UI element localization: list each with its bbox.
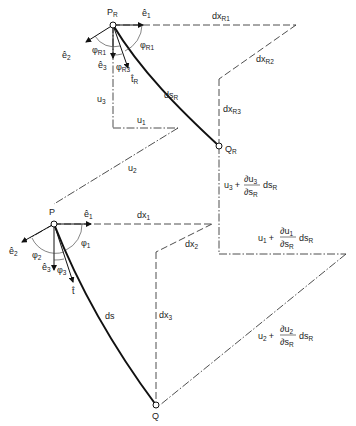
label-p: P <box>49 207 55 217</box>
label-qr: QR <box>225 144 237 155</box>
formula-u1-plus: u1+ ∂u1 ∂sR dsR <box>258 226 314 250</box>
u2-line <box>54 128 178 204</box>
label-e2-upper: ê2 <box>62 50 71 61</box>
dx-r2-line <box>219 25 296 79</box>
label-ds-r: dsR <box>164 90 179 101</box>
deformed-configuration: P ê1 ê2 ê3 t̂ φ1 φ2 φ3 ds dx1 dx2 dx3 Q <box>9 207 212 421</box>
svg-text:dsR: dsR <box>263 180 278 191</box>
formula-u3-plus: u3+ ∂u3 ∂sR dsR <box>224 174 278 198</box>
label-u1: u1 <box>137 115 146 126</box>
label-u3: u3 <box>97 94 106 105</box>
label-t-lower: t̂ <box>71 286 75 296</box>
svg-text:dsR: dsR <box>299 331 314 342</box>
svg-text:dsR: dsR <box>299 233 314 244</box>
label-dx-r1: dxR1 <box>212 11 230 22</box>
label-phi3: φ3 <box>57 265 67 276</box>
svg-text:u1+: u1+ <box>258 233 274 244</box>
label-e3-lower: ê3 <box>42 262 51 273</box>
svg-text:∂sR: ∂sR <box>280 337 294 348</box>
phi3-arc <box>54 259 64 260</box>
dx2-line <box>156 224 212 252</box>
reference-configuration: PR ê1 ê2 ê3 t̂R φR1 φR1 φR3 dsR dxR1 dxR… <box>54 7 346 405</box>
label-ds: ds <box>105 311 115 321</box>
u2-plus-line <box>160 254 346 405</box>
label-dx3: dx3 <box>159 310 173 321</box>
svg-text:∂u2: ∂u2 <box>280 324 293 335</box>
deformation-diagram: PR ê1 ê2 ê3 t̂R φR1 φR1 φR3 dsR dxR1 dxR… <box>0 0 356 426</box>
label-e1-upper: ê1 <box>142 8 151 19</box>
phi-r2-arc <box>95 36 120 47</box>
label-dx2: dx2 <box>185 239 199 250</box>
phi-r3-arc <box>113 54 122 55</box>
e2-arrow-lower <box>22 224 54 242</box>
label-e2-lower: ê2 <box>9 246 18 257</box>
label-dx-r2: dxR2 <box>256 54 274 65</box>
svg-text:∂sR: ∂sR <box>244 187 258 198</box>
label-phi-r1-left: φR1 <box>92 45 107 56</box>
point-q <box>153 402 159 408</box>
label-e1-lower: ê1 <box>84 209 93 220</box>
label-q: Q <box>152 411 159 421</box>
label-dx1: dx1 <box>137 210 151 221</box>
label-e3-upper: ê3 <box>98 60 107 71</box>
label-phi-r1-right: φR1 <box>140 40 155 51</box>
label-pr: PR <box>107 7 118 18</box>
svg-text:u3+: u3+ <box>224 180 240 191</box>
e2-arrow-upper <box>86 25 113 42</box>
point-qr <box>216 143 222 149</box>
svg-text:∂sR: ∂sR <box>280 239 294 250</box>
label-u2: u2 <box>128 163 137 174</box>
svg-text:u2+: u2+ <box>258 331 274 342</box>
label-phi1: φ1 <box>81 238 91 249</box>
label-phi2: φ2 <box>32 250 42 261</box>
label-t-upper: t̂R <box>130 74 138 85</box>
svg-text:∂u3: ∂u3 <box>244 174 257 185</box>
point-pr <box>110 22 116 28</box>
point-p <box>51 221 57 227</box>
svg-text:∂u1: ∂u1 <box>280 226 293 237</box>
label-phi-r3: φR3 <box>116 62 131 73</box>
phi1-arc <box>66 224 82 250</box>
formula-u2-plus: u2+ ∂u2 ∂sR dsR <box>258 324 314 348</box>
label-dx-r3: dxR3 <box>223 104 241 115</box>
